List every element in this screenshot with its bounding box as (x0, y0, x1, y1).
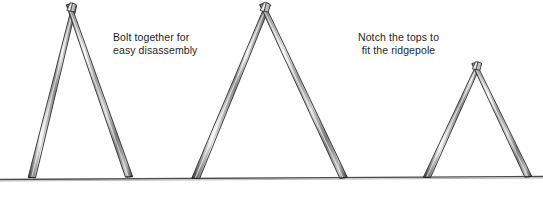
a-frame-illustration: Bolt together for easy disassembly Notch… (0, 0, 543, 197)
a-frame-left (28, 3, 132, 178)
caption-notch-line-2: fit the ridgepole (358, 44, 439, 57)
caption-bolt-together: Bolt together for easy disassembly (113, 31, 197, 57)
scene-drawing (0, 0, 543, 197)
caption-notch-tops: Notch the tops to fit the ridgepole (358, 31, 439, 57)
a-frame-left-leg-left (28, 5, 76, 178)
caption-bolt-line-2: easy disassembly (113, 44, 197, 57)
caption-bolt-line-1: Bolt together for (113, 31, 197, 44)
a-frame-center-leg-left (192, 4, 271, 179)
a-frame-center-leg-right (260, 3, 348, 178)
caption-notch-line-1: Notch the tops to (358, 31, 439, 44)
a-frame-right-leg-right (472, 62, 532, 177)
a-frame-left-leg-right (66, 4, 132, 177)
a-frame-center (192, 2, 348, 178)
a-frame-right (423, 62, 531, 178)
ground-line (0, 177, 543, 182)
a-frame-right-leg-left (423, 63, 481, 178)
